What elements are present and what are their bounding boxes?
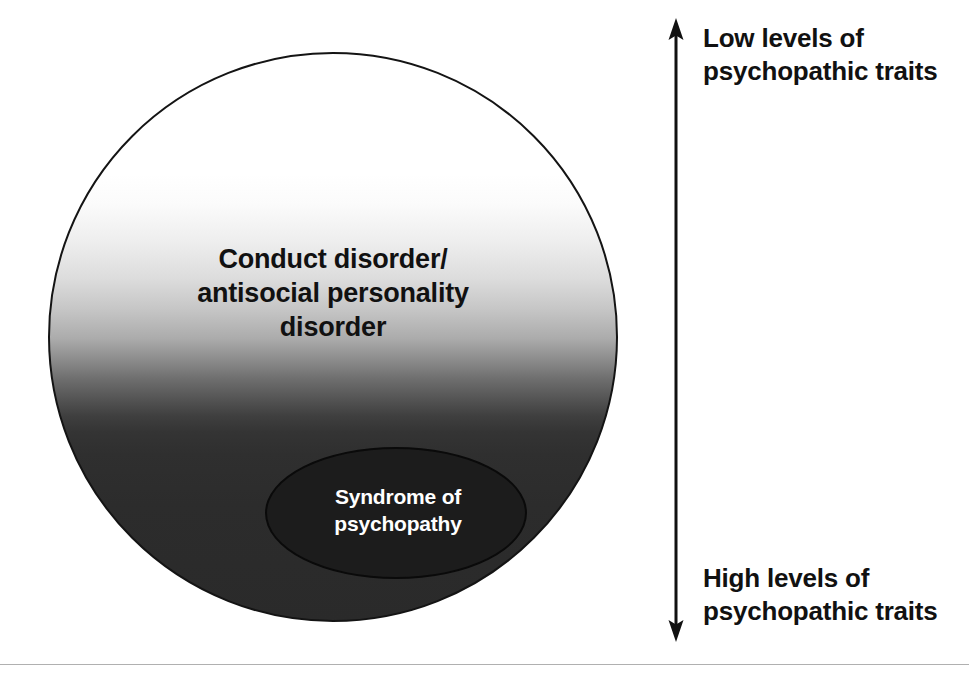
conduct-disorder-label: Conduct disorder/ antisocial personality… [48,242,618,344]
psychopathy-ellipse: Syndrome of psychopathy [265,447,527,579]
low-psychopathic-traits-label: Low levels of psychopathic traits [703,22,938,88]
conduct-disorder-circle: Conduct disorder/ antisocial personality… [48,52,618,622]
psychopathy-label-line-2: psychopathy [267,510,529,537]
psychopathy-spectrum-diagram: Conduct disorder/ antisocial personality… [0,0,969,676]
double-headed-vertical-arrow-icon [660,18,692,642]
psychopathy-label-line-1: Syndrome of [267,483,529,510]
psychopathy-label: Syndrome of psychopathy [267,483,529,537]
conduct-disorder-label-line-1: Conduct disorder/ [48,242,618,276]
high-psychopathic-traits-label: High levels of psychopathic traits [703,562,938,628]
conduct-disorder-label-line-2: antisocial personality [48,276,618,310]
bottom-divider [0,664,969,665]
conduct-disorder-label-line-3: disorder [48,310,618,344]
